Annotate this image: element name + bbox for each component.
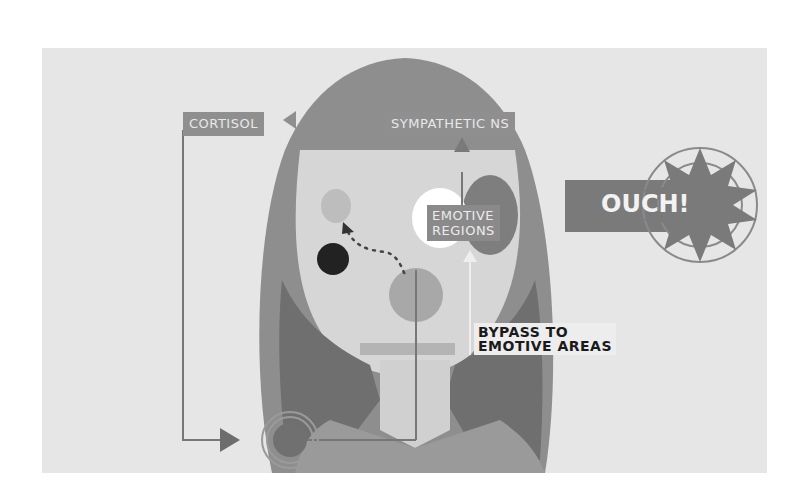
target-core (273, 423, 307, 457)
collar-band (360, 343, 455, 355)
diagram-canvas (0, 0, 805, 503)
cortisol-label: CORTISOL (183, 112, 264, 136)
emotive-regions-line2: REGIONS (432, 223, 495, 238)
dark-circle (317, 243, 349, 275)
bypass-label: BYPASS TO EMOTIVE AREAS (474, 323, 616, 355)
infographic-stage: CORTISOL SYMPATHETIC NS EMOTIVE REGIONS … (0, 0, 805, 503)
sympathetic-ns-label: SYMPATHETIC NS (385, 112, 515, 136)
small-circle (321, 189, 351, 223)
bypass-line1: BYPASS TO (478, 325, 612, 339)
emotive-regions-line1: EMOTIVE (432, 208, 495, 223)
ouch-label: OUCH! (601, 190, 690, 218)
bypass-line2: EMOTIVE AREAS (478, 339, 612, 353)
emotive-regions-label: EMOTIVE REGIONS (427, 205, 500, 241)
